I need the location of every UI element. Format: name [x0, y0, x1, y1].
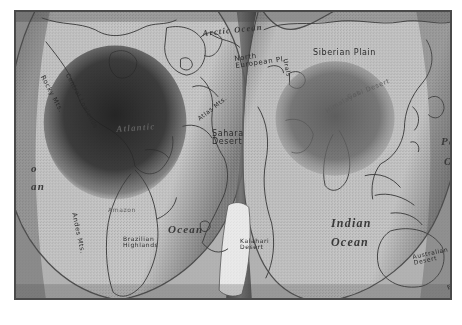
map-page: Arctic OceanRocky Mts.Central LowlandsNo… [0, 0, 462, 325]
map-frame: Arctic OceanRocky Mts.Central LowlandsNo… [14, 10, 452, 300]
halftone-grain-layer [16, 12, 450, 298]
map-canvas: Arctic OceanRocky Mts.Central LowlandsNo… [16, 12, 450, 298]
